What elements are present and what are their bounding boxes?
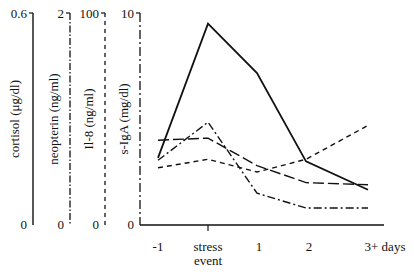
sigA-label: s-IgA (mg/dl) bbox=[116, 83, 131, 154]
x-tick-3plus: 3+ days bbox=[365, 239, 406, 254]
series-group bbox=[158, 24, 368, 208]
x-tick-stress: stress bbox=[194, 239, 223, 254]
neopterin-min: 0 bbox=[58, 217, 65, 232]
neopterin-max: 2 bbox=[58, 6, 65, 21]
sigA-min: 0 bbox=[128, 217, 135, 232]
x-axis: -1 stress event 1 2 3+ days bbox=[140, 225, 405, 268]
series-sigA bbox=[158, 138, 368, 185]
cortisol-max: 0.6 bbox=[11, 6, 28, 21]
series-cortisol bbox=[158, 24, 368, 190]
il8-label: Il-8 (ng/ml) bbox=[81, 88, 96, 149]
il8-min: 0 bbox=[93, 217, 100, 232]
cortisol-label: cortisol (μg/dl) bbox=[7, 80, 22, 158]
x-tick-2: 2 bbox=[306, 239, 313, 254]
axis-sigA: 10 0 s-IgA (mg/dl) bbox=[116, 6, 140, 232]
sigA-max: 10 bbox=[121, 6, 134, 21]
x-tick-minus1: -1 bbox=[153, 239, 164, 254]
axis-il8: 100 0 Il-8 (ng/ml) bbox=[80, 6, 106, 232]
series-il8 bbox=[158, 125, 368, 172]
x-tick-1: 1 bbox=[256, 239, 263, 254]
axis-neopterin: 2 0 neopterin (ng/ml) bbox=[46, 6, 70, 232]
series-neopterin bbox=[158, 122, 368, 208]
cortisol-min: 0 bbox=[21, 217, 28, 232]
chart: 0.6 0 cortisol (μg/dl) 2 0 neopterin (ng… bbox=[0, 0, 414, 278]
axis-cortisol: 0.6 0 cortisol (μg/dl) bbox=[7, 6, 33, 232]
x-tick-event: event bbox=[194, 253, 223, 268]
il8-max: 100 bbox=[80, 6, 100, 21]
neopterin-label: neopterin (ng/ml) bbox=[46, 73, 61, 164]
